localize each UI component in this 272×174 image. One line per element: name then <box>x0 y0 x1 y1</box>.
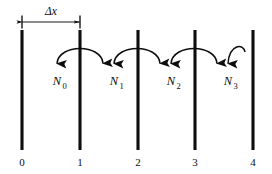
flux-arrow-N0: N 0 <box>52 49 103 91</box>
node-number-2: 2 <box>135 156 141 168</box>
flux-arrow-N3: N 3 <box>223 47 245 91</box>
node-number-3: 3 <box>192 156 198 168</box>
grid-flux-diagram: Δx N 0 N 1 N 2 <box>0 0 272 174</box>
node-numbers-group: 0 1 2 3 4 <box>19 156 256 168</box>
flux-arc-3 <box>228 47 245 64</box>
node-number-4: 4 <box>250 156 256 168</box>
diagram-canvas: Δx N 0 N 1 N 2 <box>0 0 272 174</box>
flux-arrow-N2: N 2 <box>166 49 217 91</box>
flux-label-N3-symbol: N <box>223 74 233 88</box>
flux-label-N2-symbol: N <box>166 74 176 88</box>
flux-label-N1-symbol: N <box>109 74 119 88</box>
flux-label-N3-subscript: 3 <box>233 81 237 91</box>
dimension-label: Δx <box>44 5 58 17</box>
node-number-1: 1 <box>77 156 83 168</box>
flux-arrow-N1: N 1 <box>109 49 160 91</box>
flux-label-N1-subscript: 1 <box>119 81 123 91</box>
flux-label-N2-subscript: 2 <box>176 81 180 91</box>
flux-label-N0-subscript: 0 <box>62 81 66 91</box>
flux-label-N0-symbol: N <box>52 74 62 88</box>
dimension-delta-x: Δx <box>22 5 80 29</box>
node-number-0: 0 <box>19 156 25 168</box>
